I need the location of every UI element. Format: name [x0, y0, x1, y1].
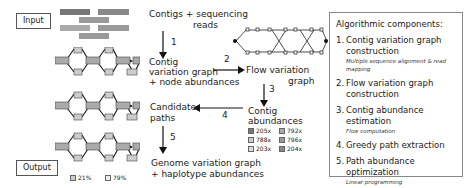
contig-abundances-label-2: abundances — [248, 116, 303, 127]
component-item-5: 5.Path abundance optimizationLinear prog… — [336, 156, 456, 186]
legend-item: 796x — [279, 136, 308, 144]
read-5 — [98, 25, 129, 31]
arrow-step-1 — [158, 31, 168, 59]
flow-graph-label-1: Flow variation — [246, 65, 309, 76]
legend-item: 792x — [279, 127, 308, 135]
arrow-step-5 — [158, 126, 168, 154]
panel-title: Algorithmic components: — [336, 19, 456, 30]
read-4 — [60, 25, 90, 31]
contigs-reads-label: Contigs + sequencing — [149, 9, 248, 20]
flow-graph-icon — [232, 22, 328, 60]
candidate-paths-label-1: Candidate — [150, 102, 196, 113]
contig-graph-label-3: + node abundances — [149, 77, 239, 88]
candidate-paths-label-2: paths — [150, 113, 175, 124]
read-6 — [79, 33, 109, 39]
read-3 — [79, 17, 109, 23]
output-legend-item-1: 21% — [70, 174, 91, 182]
read-2 — [98, 9, 129, 15]
legend-item: 205x — [248, 127, 277, 135]
step-2-number: 2 — [224, 54, 230, 65]
swatch-icon — [279, 146, 285, 152]
component-item-4: 4.Greedy path extraction — [336, 140, 456, 151]
input-label: Input — [23, 16, 44, 25]
step-1-number: 1 — [171, 37, 177, 48]
legend-item: 203x — [248, 145, 277, 153]
input-label-box: Input — [16, 13, 51, 29]
swatch-icon — [279, 128, 285, 134]
swatch-icon — [70, 175, 76, 181]
swatch-icon — [105, 175, 111, 181]
output-label-box: Output — [16, 160, 58, 176]
step-4-number: 4 — [222, 110, 228, 121]
arrow-step-4 — [193, 104, 243, 112]
step-3-number: 3 — [269, 84, 275, 95]
step-5-number: 5 — [170, 132, 176, 143]
component-item-3: 3.Contig abundance estimationFlow comput… — [336, 105, 456, 135]
arrow-step-3 — [259, 84, 269, 107]
contigs-reads-label-2: reads — [193, 20, 218, 31]
component-item-2: 2.Flow variation graph construction — [336, 78, 456, 100]
genome-graph-label-1: Genome variation graph — [151, 158, 261, 169]
variation-graphs — [55, 47, 140, 172]
arrow-step-2 — [213, 66, 245, 74]
algorithmic-components-panel: Algorithmic components: 1.Contig variati… — [329, 12, 463, 177]
genome-graph-label-2: + haplotype abundances — [151, 169, 264, 180]
swatch-icon — [279, 137, 285, 143]
output-label: Output — [23, 163, 51, 172]
component-item-1: 1.Contig variation graph constructionMul… — [336, 35, 456, 73]
swatch-icon — [248, 128, 254, 134]
read-1 — [60, 9, 90, 15]
abundance-legend: 205x 792x 788x 796x 203x 204x — [248, 127, 308, 154]
swatch-icon — [248, 137, 254, 143]
swatch-icon — [248, 146, 254, 152]
output-legend-item-2: 79% — [105, 174, 126, 182]
legend-item: 204x — [279, 145, 308, 153]
flow-graph-label-2: graph — [288, 76, 314, 87]
legend-item: 788x — [248, 136, 277, 144]
